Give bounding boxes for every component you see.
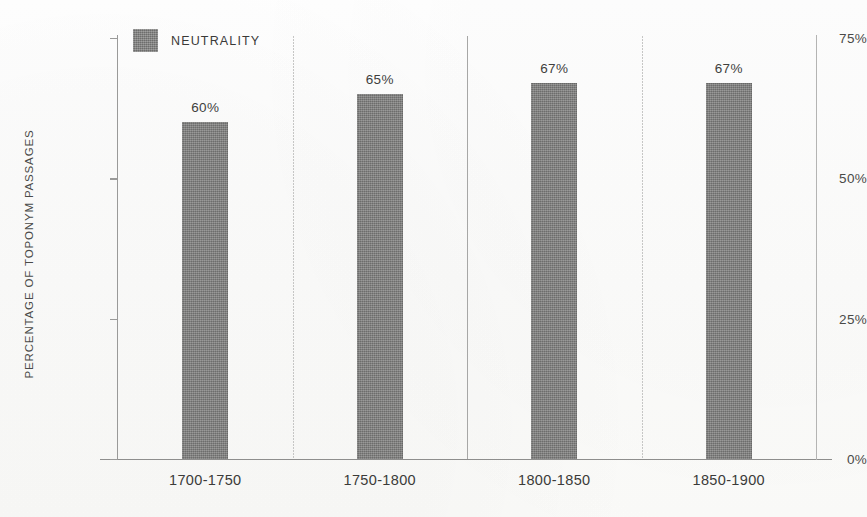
chart-legend: NEUTRALITY — [133, 29, 260, 52]
bar — [357, 94, 403, 459]
y-axis-title-text: PERCENTAGE OF TOPONYM PASSAGES — [23, 130, 35, 379]
bar-value-label: 60% — [165, 100, 245, 115]
category-separator — [293, 36, 294, 459]
y-tick-label: 50% — [803, 171, 867, 186]
y-tick-label: 0% — [803, 452, 867, 467]
x-category-label: 1850-1900 — [649, 472, 809, 488]
y-tick-mark — [110, 459, 118, 460]
y-axis-title: PERCENTAGE OF TOPONYM PASSAGES — [18, 104, 40, 404]
y-tick-label: 25% — [803, 311, 867, 326]
x-category-label: 1750-1800 — [300, 472, 460, 488]
y-tick-label: 75% — [803, 31, 867, 46]
category-separator — [642, 36, 643, 459]
category-separator — [467, 36, 468, 459]
plot-right-edge-line — [816, 35, 817, 460]
bar — [706, 83, 752, 459]
legend-swatch-neutrality — [133, 29, 158, 52]
y-tick-mark — [110, 178, 118, 179]
bar — [182, 122, 228, 459]
legend-label-neutrality: NEUTRALITY — [171, 34, 260, 48]
bar — [531, 83, 577, 459]
y-tick-mark — [110, 38, 118, 39]
bar-value-label: 67% — [514, 61, 594, 76]
bar-value-label: 65% — [340, 72, 420, 87]
y-tick-mark — [110, 319, 118, 320]
x-category-label: 1800-1850 — [474, 472, 634, 488]
x-axis-line — [100, 459, 832, 460]
bar-chart-figure: PERCENTAGE OF TOPONYM PASSAGES 75%50%25%… — [0, 0, 867, 517]
y-axis-line — [117, 35, 118, 460]
bar-value-label: 67% — [689, 61, 769, 76]
x-category-label: 1700-1750 — [125, 472, 285, 488]
